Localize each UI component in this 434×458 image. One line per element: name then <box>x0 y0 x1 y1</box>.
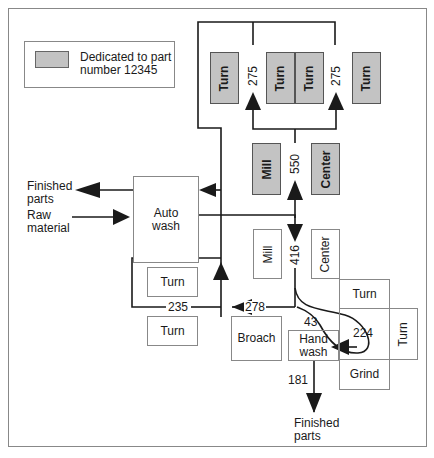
flow-43: 43 <box>304 316 317 328</box>
auto-wash: Auto wash <box>133 176 199 263</box>
dedicated-turn-2: Turn <box>266 52 295 104</box>
dedicated-turn-4: Turn <box>352 52 381 104</box>
shared-mill: Mill <box>253 229 282 279</box>
flow-275-right: 275 <box>330 66 342 86</box>
flow-416: 416 <box>289 245 301 265</box>
shared-turn-loop-upper: Turn <box>147 267 198 297</box>
finished-parts-bottom-label: Finished parts <box>294 417 339 443</box>
raw-material-label: Raw material <box>27 209 70 235</box>
shared-turn-loop-lower: Turn <box>147 316 198 346</box>
shared-turn-right-vertical: Turn <box>389 308 418 360</box>
dedicated-mill: Mill <box>252 143 281 195</box>
shared-turn-upper-right: Turn <box>339 279 390 309</box>
shared-center: Center <box>311 229 340 279</box>
dedicated-center: Center <box>311 143 340 195</box>
dedicated-turn-3: Turn <box>295 52 324 104</box>
flow-181: 181 <box>288 374 308 386</box>
flow-235: 235 <box>167 301 189 313</box>
shared-broach: Broach <box>231 316 282 361</box>
flow-550: 550 <box>289 154 301 174</box>
flow-224: 224 <box>353 327 373 339</box>
finished-parts-left-label: Finished parts <box>27 180 72 206</box>
flow-275-left: 275 <box>247 66 259 86</box>
shared-grind: Grind <box>339 359 390 390</box>
hand-wash: Hand wash <box>288 330 339 361</box>
flow-278: 278 <box>244 301 266 313</box>
dedicated-turn-1: Turn <box>210 52 239 104</box>
